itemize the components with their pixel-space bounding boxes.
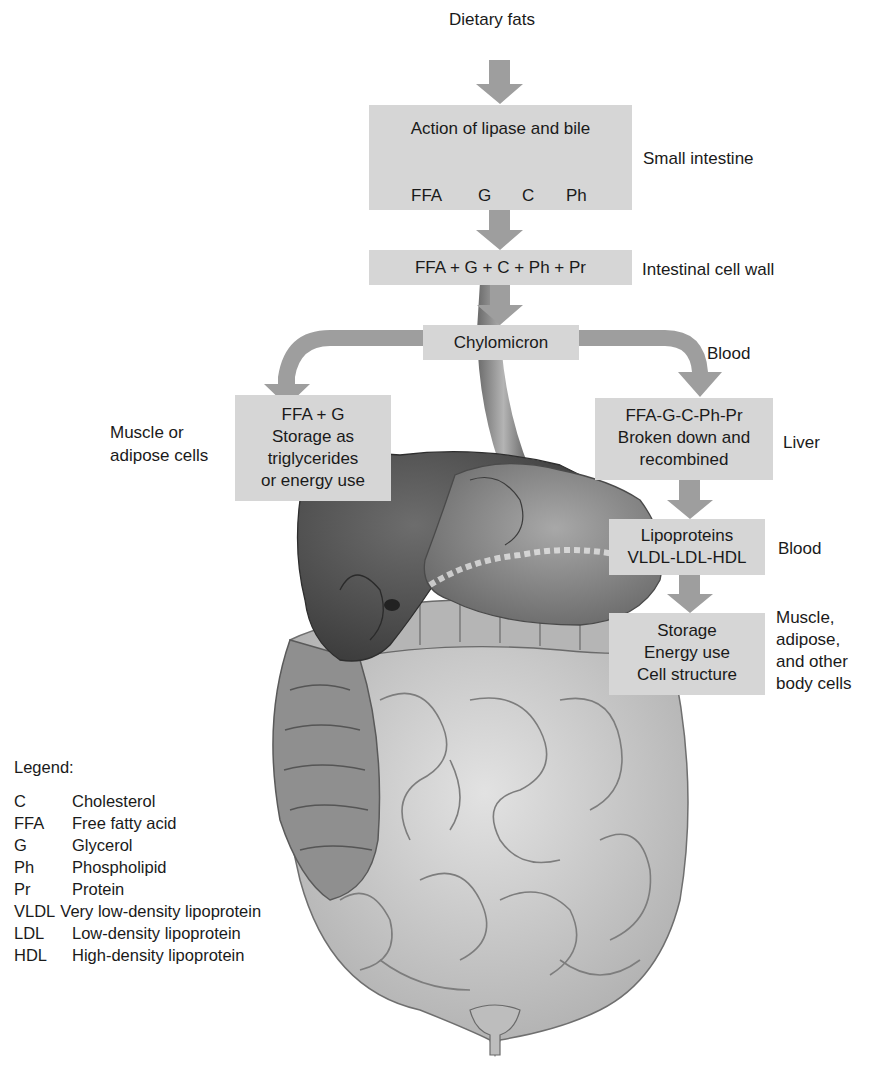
body-cells-label-line: adipose, [776, 629, 852, 651]
legend-abbr: G [14, 834, 72, 856]
legend-item: LDLLow-density lipoprotein [14, 922, 261, 944]
legend-meaning: Free fatty acid [72, 812, 177, 834]
arrow-down-liver [667, 480, 713, 519]
muscle-adipose-label: Muscle or adipose cells [110, 421, 208, 467]
legend-meaning: Cholesterol [72, 790, 155, 812]
legend-abbr: LDL [14, 922, 72, 944]
legend-abbr: VLDL [14, 900, 55, 922]
blood-label-bottom: Blood [778, 538, 821, 559]
legend-item: FFAFree fatty acid [14, 812, 261, 834]
intestinal-cell-wall-label: Intestinal cell wall [642, 259, 774, 280]
legend-item: CCholesterol [14, 790, 261, 812]
body-cells-line: Energy use [609, 642, 765, 664]
legend-meaning: High-density lipoprotein [72, 944, 244, 966]
lipoproteins-box: Lipoproteins VLDL-LDL-HDL [609, 519, 765, 575]
legend: Legend: CCholesterol FFAFree fatty acid … [14, 756, 261, 966]
muscle-adipose-line: or energy use [235, 470, 391, 492]
lipoproteins-line: Lipoproteins [609, 525, 765, 547]
legend-item: VLDLVery low-density lipoprotein [14, 900, 261, 922]
legend-item: GGlycerol [14, 834, 261, 856]
lipase-bile-heading: Action of lipase and bile [369, 118, 632, 139]
muscle-adipose-line: triglycerides [235, 448, 391, 470]
muscle-adipose-line: Storage as [235, 426, 391, 448]
component-ph: Ph [566, 186, 587, 206]
legend-abbr: HDL [14, 944, 72, 966]
legend-meaning: Protein [72, 878, 124, 900]
legend-title: Legend: [14, 756, 261, 778]
legend-meaning: Phospholipid [72, 856, 167, 878]
intestinal-cell-wall-box: FFA + G + C + Ph + Pr [369, 250, 632, 285]
legend-abbr: Pr [14, 878, 72, 900]
legend-item: PrProtein [14, 878, 261, 900]
body-cells-label: Muscle, adipose, and other body cells [776, 607, 852, 695]
body-cells-label-line: Muscle, [776, 607, 852, 629]
muscle-adipose-label-line: Muscle or [110, 421, 208, 444]
arrow-down-dietary [476, 60, 523, 104]
liver-line: recombined [595, 449, 773, 471]
body-cells-line: Cell structure [609, 664, 765, 686]
muscle-adipose-box: FFA + G Storage as triglycerides or ener… [235, 395, 391, 501]
body-cells-label-line: body cells [776, 673, 852, 695]
legend-meaning: Very low-density lipoprotein [60, 900, 261, 922]
body-cells-label-line: and other [776, 651, 852, 673]
small-intestine-label: Small intestine [643, 148, 754, 169]
component-g: G [478, 186, 491, 206]
lipoproteins-line: VLDL-LDL-HDL [609, 547, 765, 569]
liver-box: FFA-G-C-Ph-Pr Broken down and recombined [595, 398, 773, 480]
body-cells-box: Storage Energy use Cell structure [609, 613, 765, 695]
arrow-curve-right [579, 330, 722, 397]
body-cells-line: Storage [609, 620, 765, 642]
muscle-adipose-line: FFA + G [235, 404, 391, 426]
liver-line: FFA-G-C-Ph-Pr [595, 405, 773, 427]
legend-item: HDLHigh-density lipoprotein [14, 944, 261, 966]
legend-meaning: Glycerol [72, 834, 133, 856]
component-c: C [522, 186, 534, 206]
legend-item: PhPhospholipid [14, 856, 261, 878]
legend-abbr: C [14, 790, 72, 812]
muscle-adipose-label-line: adipose cells [110, 444, 208, 467]
component-ffa: FFA [411, 186, 442, 206]
chylomicron-box: Chylomicron [423, 325, 579, 360]
arrow-down-intestine [476, 210, 523, 250]
blood-label-top: Blood [707, 343, 750, 364]
legend-meaning: Low-density lipoprotein [72, 922, 241, 944]
liver-line: Broken down and [595, 427, 773, 449]
small-intestine-box: Action of lipase and bile [369, 105, 632, 210]
liver-label: Liver [783, 432, 820, 453]
dietary-fats-label: Dietary fats [449, 9, 535, 30]
legend-abbr: Ph [14, 856, 72, 878]
arrow-down-lipoproteins [667, 575, 713, 613]
legend-abbr: FFA [14, 812, 72, 834]
